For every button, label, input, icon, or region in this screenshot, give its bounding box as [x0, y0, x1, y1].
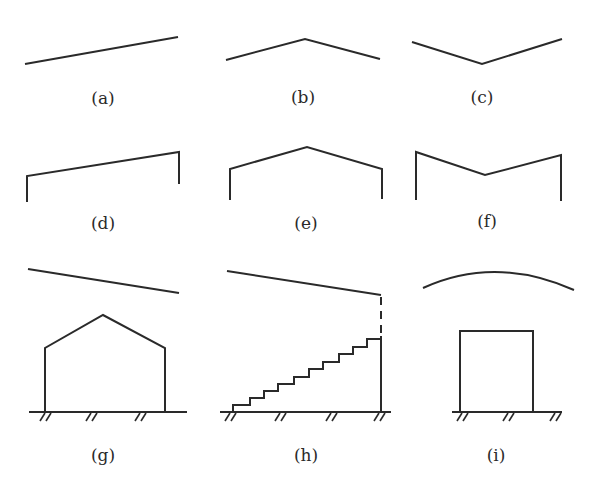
panel-label-f: (f) — [477, 211, 497, 231]
panel-f: (f) — [416, 152, 561, 231]
ground-hatch — [40, 413, 146, 421]
panel-c: (c) — [412, 39, 562, 107]
ridge-line — [226, 39, 380, 60]
panel-e: (e) — [230, 147, 382, 233]
panel-i: (i) — [423, 272, 574, 465]
valley-line — [412, 39, 562, 64]
panel-label-a: (a) — [91, 88, 114, 108]
panel-label-e: (e) — [294, 213, 317, 233]
panel-g: (g) — [28, 269, 187, 465]
box — [460, 331, 533, 412]
butterfly-frame — [416, 152, 561, 201]
staircase — [233, 339, 381, 412]
panel-d: (d) — [27, 152, 179, 233]
ground-hatch — [457, 413, 561, 421]
panel-a: (a) — [25, 37, 178, 108]
panel-label-b: (b) — [291, 87, 315, 107]
panel-h: (h) — [220, 271, 391, 465]
panel-label-h: (h) — [294, 445, 318, 465]
panel-label-g: (g) — [91, 445, 115, 465]
sloped-line — [25, 37, 178, 64]
mono-pitch-frame — [27, 152, 179, 202]
gabled-house — [45, 315, 165, 412]
sloped-line — [28, 269, 179, 293]
ground-hatch — [225, 413, 385, 421]
gable-frame — [230, 147, 382, 200]
panel-b: (b) — [226, 39, 380, 107]
panel-label-i: (i) — [487, 445, 506, 465]
figure-canvas: (a) (b) (c) (d) (e) (f) — [0, 0, 592, 481]
arc — [423, 272, 574, 290]
panel-label-c: (c) — [471, 87, 494, 107]
sloped-line — [227, 271, 381, 295]
panel-label-d: (d) — [91, 213, 115, 233]
